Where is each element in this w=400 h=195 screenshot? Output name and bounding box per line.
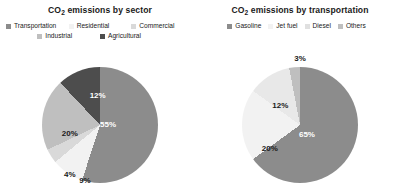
pie-slice-label-gasoline: 65%: [299, 130, 315, 139]
legend-item-transportation: Transportation: [6, 22, 69, 30]
page-title-sector: CO2 emissions by sector: [0, 5, 200, 18]
legend-item-industrial: Industrial: [37, 32, 100, 40]
chart-panel-sector: CO2 emissions by sector TransportationRe…: [0, 0, 200, 195]
legend-item-label: Jet fuel: [276, 22, 297, 30]
legend-item-diesel: Diesel: [305, 22, 331, 30]
legend-swatch-icon: [69, 24, 74, 29]
legend-swatch-icon: [305, 24, 310, 29]
pie-slice-label-jet-fuel: 20%: [262, 144, 278, 153]
title-text-rest: emissions by sector: [65, 5, 152, 15]
legend-item-commercial: Commercial: [131, 22, 194, 30]
pie-slice-label-transportation: 55%: [100, 119, 116, 128]
legend-item-agricultural: Agricultural: [100, 32, 163, 40]
legend-item-label: Residential: [77, 22, 110, 30]
title-text-main: CO: [231, 5, 244, 15]
legend-item-label: Commercial: [139, 22, 174, 30]
legend-sector: TransportationResidentialCommercialIndus…: [0, 22, 200, 40]
legend-item-label: Agricultural: [108, 32, 141, 40]
pie-slice-label-agricultural: 12%: [90, 90, 106, 99]
pie-wrap-transportation: 65%20%12%3%: [200, 67, 400, 183]
legend-swatch-icon: [6, 24, 11, 29]
pie-chart: 65%20%12%3%: [242, 67, 358, 183]
legend-item-others: Others: [338, 22, 366, 30]
pie-slice-label-commercial: 4%: [64, 169, 76, 178]
pie-chart: 55%9%4%20%12%: [42, 67, 158, 183]
legend-item-gasoline: Gasoline: [227, 22, 261, 30]
page-title-transportation: CO2 emissions by transportation: [200, 5, 400, 18]
legend-item-jet-fuel: Jet fuel: [268, 22, 297, 30]
legend-item-label: Industrial: [45, 32, 72, 40]
legend-swatch-icon: [338, 24, 343, 29]
legend-swatch-icon: [131, 24, 136, 29]
legend-swatch-icon: [37, 34, 42, 39]
pie-slice-label-others: 3%: [294, 53, 306, 62]
pie-slice-label-industrial: 20%: [62, 129, 78, 138]
legend-transportation: GasolineJet fuelDieselOthers: [200, 22, 400, 30]
legend-item-label: Transportation: [14, 22, 56, 30]
chart-panel-transportation: CO2 emissions by transportation Gasoline…: [200, 0, 400, 195]
legend-swatch-icon: [227, 24, 232, 29]
legend-item-label: Diesel: [313, 22, 331, 30]
title-text-rest: emissions by transportation: [248, 5, 368, 15]
title-text-main: CO: [48, 5, 61, 15]
figure-container: CO2 emissions by sector TransportationRe…: [0, 0, 400, 195]
pie-slice-label-diesel: 12%: [272, 101, 288, 110]
legend-swatch-icon: [100, 34, 105, 39]
legend-item-label: Others: [346, 22, 366, 30]
pie-slice-label-residential: 9%: [79, 175, 91, 184]
pie-wrap-sector: 55%9%4%20%12%: [0, 67, 200, 183]
legend-item-residential: Residential: [69, 22, 132, 30]
legend-item-label: Gasoline: [235, 22, 261, 30]
legend-swatch-icon: [268, 24, 273, 29]
